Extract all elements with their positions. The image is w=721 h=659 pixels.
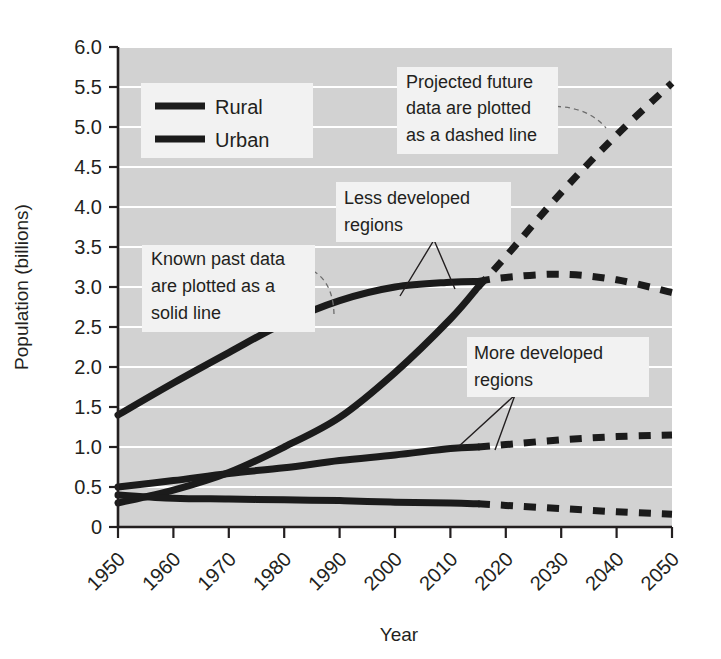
x-tick-label-2050: 2050	[636, 548, 683, 595]
x-tick-label-1970: 1970	[193, 548, 240, 595]
less-developed-regions-line-2: regions	[344, 215, 403, 235]
x-axis-tickmarks	[118, 527, 672, 538]
y-tick-label-5.0: 5.0	[74, 116, 102, 138]
known-past-data-line-3: solid line	[151, 303, 221, 323]
y-tick-label-6.0: 6.0	[74, 36, 102, 58]
legend-label-rural: Rural	[215, 96, 263, 118]
x-tick-label-2040: 2040	[581, 548, 628, 595]
legend: Rural Urban	[141, 83, 313, 158]
projected-future-data-line-2: data are plotted	[406, 98, 531, 118]
y-axis-tickmarks	[109, 47, 118, 527]
x-tick-label-1980: 1980	[248, 548, 295, 595]
projected-future-data-line-1: Projected future	[406, 72, 533, 92]
y-tick-label-1.0: 1.0	[74, 436, 102, 458]
y-tick-label-0: 0	[91, 516, 102, 538]
projected-future-data-line-3: as a dashed line	[406, 125, 537, 145]
y-tick-label-3.0: 3.0	[74, 276, 102, 298]
y-axis-title: Population (billions)	[11, 204, 32, 370]
x-tick-label-2000: 2000	[359, 548, 406, 595]
y-tick-label-3.5: 3.5	[74, 236, 102, 258]
x-axis-tick-labels: 1950196019701980199020002010202020302040…	[82, 548, 683, 595]
annotation-known-past-data: Known past data are plotted as a solid l…	[142, 245, 334, 332]
x-tick-label-1960: 1960	[138, 548, 185, 595]
y-tick-label-5.5: 5.5	[74, 76, 102, 98]
legend-label-urban: Urban	[215, 129, 269, 151]
chart-figure: 00.51.01.52.02.53.03.54.04.55.05.56.0 19…	[0, 0, 721, 659]
y-tick-label-0.5: 0.5	[74, 476, 102, 498]
x-tick-label-2020: 2020	[470, 548, 517, 595]
y-tick-label-4.0: 4.0	[74, 196, 102, 218]
y-tick-label-2.5: 2.5	[74, 316, 102, 338]
population-rural-urban-line-chart: 00.51.01.52.02.53.03.54.04.55.05.56.0 19…	[0, 0, 721, 659]
known-past-data-line-1: Known past data	[151, 249, 286, 269]
y-tick-label-1.5: 1.5	[74, 396, 102, 418]
less-developed-regions-line-1: Less developed	[344, 188, 470, 208]
y-tick-label-2.0: 2.0	[74, 356, 102, 378]
x-tick-label-1950: 1950	[82, 548, 129, 595]
y-axis-tick-labels: 00.51.01.52.02.53.03.54.04.55.05.56.0	[74, 36, 102, 538]
more-developed-regions-line-1: More developed	[474, 343, 603, 363]
more-developed-regions-line-2: regions	[474, 370, 533, 390]
x-axis-title: Year	[380, 624, 419, 645]
x-tick-label-1990: 1990	[304, 548, 351, 595]
known-past-data-line-2: are plotted as a	[151, 276, 276, 296]
x-tick-label-2010: 2010	[415, 548, 462, 595]
x-tick-label-2030: 2030	[525, 548, 572, 595]
y-tick-label-4.5: 4.5	[74, 156, 102, 178]
